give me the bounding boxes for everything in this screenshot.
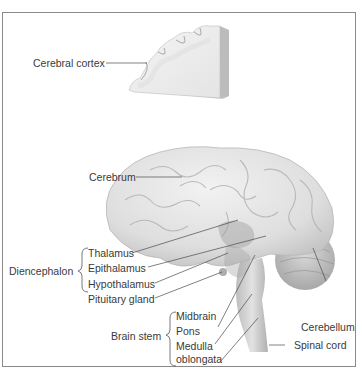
label-hypothalamus: Hypothalamus xyxy=(88,278,155,290)
label-spinal-cord: Spinal cord xyxy=(294,339,347,351)
diencephalon-bracket xyxy=(78,248,88,292)
label-cerebellum: Cerebellum xyxy=(301,321,355,333)
label-medulla-line1: Medulla xyxy=(176,340,213,352)
label-pituitary-gland: Pituitary gland xyxy=(88,293,155,305)
label-diencephalon: Diencephalon xyxy=(9,265,73,277)
label-medulla-line2: oblongata xyxy=(176,353,222,365)
label-thalamus: Thalamus xyxy=(88,247,134,259)
brain-stem-bracket xyxy=(166,312,176,366)
label-cerebrum: Cerebrum xyxy=(89,171,136,183)
label-pons: Pons xyxy=(176,325,200,337)
label-midbrain: Midbrain xyxy=(176,310,216,322)
cortex-section-block xyxy=(129,26,229,99)
label-epithalamus: Epithalamus xyxy=(88,262,146,274)
label-brain-stem: Brain stem xyxy=(111,330,161,342)
label-cerebral-cortex: Cerebral cortex xyxy=(33,57,105,69)
